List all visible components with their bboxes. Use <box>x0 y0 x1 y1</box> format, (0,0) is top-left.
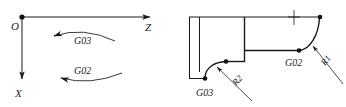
g03-fillet-arc <box>205 62 226 79</box>
figure-canvas: O Z X G03 G02 <box>0 0 346 107</box>
node-dot-g02-end <box>318 15 323 20</box>
g02-profile-label: G02 <box>285 57 302 68</box>
origin-label: O <box>11 20 19 32</box>
node-dot-g03-end <box>224 59 229 64</box>
coordinate-axes-group: O Z X G03 G02 <box>11 14 152 99</box>
g03-profile-label: G03 <box>196 87 213 98</box>
r2-label: R2 <box>230 73 245 88</box>
workpiece-profile-group: R1 R2 G03 G02 <box>189 10 343 101</box>
x-axis-label: X <box>14 87 23 99</box>
g02-corner-arc <box>299 18 320 51</box>
g02-arc-label: G02 <box>74 65 91 76</box>
node-dot-g02-start <box>297 48 302 53</box>
g02-direction-arc <box>61 73 122 81</box>
g03-arc-label: G03 <box>74 35 91 46</box>
z-axis-label: Z <box>145 21 152 33</box>
node-dot-g03-start <box>203 76 208 81</box>
figure-root: O Z X G03 G02 <box>0 0 346 107</box>
origin-dot <box>19 14 24 19</box>
